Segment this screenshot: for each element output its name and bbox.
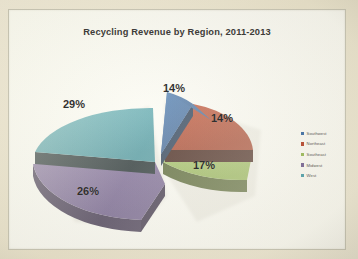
legend-swatch-icon [301,132,304,135]
legend-item-southeast[interactable]: Southeast [301,149,358,160]
data-label-west: 29% [63,98,85,110]
chart-paper: Recycling Revenue by Region, 2011-2013 [8,9,346,250]
legend-swatch-icon [301,174,304,177]
chart-legend: Southwest Northeast Southeast Midwest We… [301,128,358,181]
legend-swatch-icon [301,163,304,166]
legend-label: Southwest [307,131,327,136]
legend-label: Northeast [307,141,326,146]
legend-swatch-icon [301,142,304,145]
legend-label: Southeast [307,152,326,157]
legend-item-midwest[interactable]: Midwest [301,160,358,171]
legend-swatch-icon [301,153,304,156]
data-label-southeast: 17% [193,159,215,171]
legend-item-northeast[interactable]: Northeast [301,139,358,150]
page-background: Recycling Revenue by Region, 2011-2013 [0,0,358,259]
data-label-northeast: 14% [211,112,233,124]
legend-label: Midwest [307,163,323,168]
data-label-midwest: 26% [77,185,99,197]
legend-item-west[interactable]: West [301,170,358,181]
chart-title: Recycling Revenue by Region, 2011-2013 [9,27,345,37]
pie-chart-plot: 14% 14% 17% 26% 29% [15,46,295,246]
legend-label: West [307,173,317,178]
data-label-southwest: 14% [163,82,185,94]
legend-item-southwest[interactable]: Southwest [301,128,358,139]
pie-chart-svg [15,46,295,246]
